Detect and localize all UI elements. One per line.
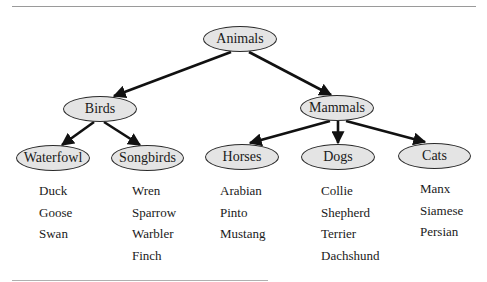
node-songbirds: Songbirds xyxy=(111,145,184,171)
node-mammals: Mammals xyxy=(300,95,374,121)
leaf-item: Dachshund xyxy=(321,245,380,267)
node-label: Cats xyxy=(422,148,447,164)
edge-birds-songbirds xyxy=(104,122,140,145)
edge-animals-mammals xyxy=(249,52,331,95)
leaf-item: Wren xyxy=(132,180,176,202)
leaf-list-horses: Arabian Pinto Mustang xyxy=(220,180,266,245)
node-birds: Birds xyxy=(63,96,137,122)
edge-animals-birds xyxy=(114,52,231,96)
edge-mammals-horses xyxy=(250,121,330,143)
leaf-item: Siamese xyxy=(420,200,463,222)
leaf-item: Duck xyxy=(39,180,72,202)
leaf-item: Shepherd xyxy=(321,202,380,224)
node-dogs: Dogs xyxy=(301,144,375,170)
node-waterfowl: Waterfowl xyxy=(16,145,90,171)
edge-mammals-cats xyxy=(346,121,425,142)
leaf-item: Terrier xyxy=(321,223,380,245)
leaf-item: Pinto xyxy=(220,202,266,224)
leaf-item: Mustang xyxy=(220,223,266,245)
node-animals: Animals xyxy=(203,26,277,52)
leaf-list-waterfowl: Duck Goose Swan xyxy=(39,180,72,245)
leaf-list-cats: Manx Siamese Persian xyxy=(420,178,463,243)
node-label: Dogs xyxy=(323,149,353,165)
leaf-item: Manx xyxy=(420,178,463,200)
leaf-item: Goose xyxy=(39,202,72,224)
node-cats: Cats xyxy=(398,143,471,169)
leaf-list-songbirds: Wren Sparrow Warbler Finch xyxy=(132,180,176,266)
node-label: Horses xyxy=(223,149,262,165)
leaf-item: Sparrow xyxy=(132,202,176,224)
bottom-rule xyxy=(12,280,268,281)
leaf-item: Persian xyxy=(420,221,463,243)
node-label: Birds xyxy=(85,101,115,117)
node-label: Mammals xyxy=(309,100,365,116)
leaf-list-dogs: Collie Shepherd Terrier Dachshund xyxy=(321,180,380,266)
leaf-item: Collie xyxy=(321,180,380,202)
leaf-item: Finch xyxy=(132,245,176,267)
node-label: Songbirds xyxy=(119,150,176,166)
node-label: Animals xyxy=(216,31,263,47)
node-label: Waterfowl xyxy=(24,150,83,166)
leaf-item: Swan xyxy=(39,223,72,245)
leaf-item: Arabian xyxy=(220,180,266,202)
leaf-item: Warbler xyxy=(132,223,176,245)
edge-birds-waterfowl xyxy=(62,122,94,145)
node-horses: Horses xyxy=(205,144,279,170)
